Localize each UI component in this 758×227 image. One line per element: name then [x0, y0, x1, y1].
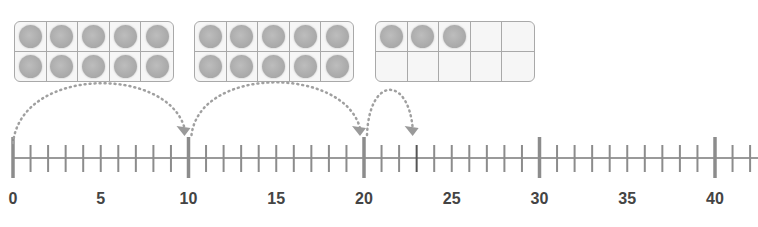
tick-label: 10 [180, 190, 198, 208]
tick-label: 30 [531, 190, 549, 208]
tick-label: 40 [706, 190, 724, 208]
tick-label: 15 [267, 190, 285, 208]
tick-label: 25 [443, 190, 461, 208]
tick-label: 0 [9, 190, 18, 208]
tick-label: 5 [96, 190, 105, 208]
tick-label: 35 [618, 190, 636, 208]
tick-label: 20 [355, 190, 373, 208]
number-line [0, 0, 758, 227]
